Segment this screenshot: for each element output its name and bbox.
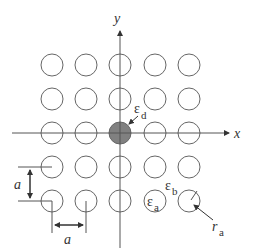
lattice-rod — [144, 156, 166, 178]
lattice-rod — [41, 88, 63, 110]
svg-text:ε: ε — [134, 101, 140, 116]
horizontal-lattice-constant: a — [52, 201, 86, 247]
vertical-lattice-constant: a — [14, 167, 52, 201]
svg-text:a: a — [219, 226, 224, 238]
photonic-crystal-diagram: x y ε d ε b ε a r a — [0, 0, 255, 249]
background-permittivity-label: ε b — [165, 178, 178, 197]
svg-text:a: a — [154, 201, 159, 213]
svg-text:a: a — [14, 177, 21, 192]
svg-text:d: d — [141, 109, 147, 121]
lattice-rod — [75, 156, 97, 178]
lattice-rod — [178, 54, 200, 76]
lattice-rod — [75, 54, 97, 76]
lattice-rod — [178, 190, 200, 212]
lattice-rod — [144, 54, 166, 76]
svg-text:b: b — [172, 185, 178, 197]
lattice-rod — [178, 156, 200, 178]
rod-radius-indicator: r a — [191, 191, 224, 238]
svg-text:r: r — [212, 219, 218, 234]
svg-text:ε: ε — [165, 178, 171, 193]
y-axis-label: y — [112, 11, 121, 26]
svg-text:ε: ε — [147, 194, 153, 209]
defect-label: ε d — [129, 101, 147, 124]
lattice-rod — [144, 88, 166, 110]
lattice-rod — [41, 54, 63, 76]
lattice-rod — [178, 88, 200, 110]
svg-text:a: a — [64, 232, 71, 247]
defect-pointer-arrow — [129, 116, 138, 124]
lattice-rod — [75, 88, 97, 110]
x-axis-label: x — [233, 126, 241, 141]
